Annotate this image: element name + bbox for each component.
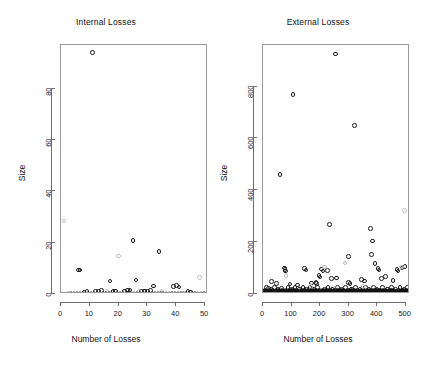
scatter-marker-circle <box>116 254 121 259</box>
scatter-marker-circle <box>278 172 283 177</box>
y-axis-tick-label: 200 <box>246 241 255 263</box>
x-axis-title-external: Number of Losses <box>212 334 424 344</box>
x-axis-tick <box>204 302 205 306</box>
scatter-marker-circle <box>62 219 67 224</box>
x-axis-tick <box>405 302 406 306</box>
scatter-marker-circle <box>352 123 357 128</box>
x-axis-tick <box>376 302 377 306</box>
scatter-marker-circle <box>325 268 330 273</box>
x-axis-tick <box>291 302 292 306</box>
y-axis-tick-label: 20 <box>44 241 53 263</box>
y-axis-tick-label: 80 <box>44 87 53 109</box>
x-axis-title-internal: Number of Losses <box>0 334 212 344</box>
panel-external-losses: External Losses 020040060080001002003004… <box>212 0 424 368</box>
plot-title-external: External Losses <box>212 17 424 27</box>
scatter-marker-circle <box>134 278 139 283</box>
scatter-marker-circle <box>197 275 202 280</box>
x-axis-tick-label: 20 <box>103 309 133 318</box>
scatter-marker-circle <box>346 254 351 259</box>
x-axis-tick-label: 200 <box>304 309 334 318</box>
scatter-marker-circle <box>348 281 353 286</box>
plot-area-internal <box>60 44 207 293</box>
scatter-marker-circle <box>383 274 388 279</box>
scatter-marker-circle <box>362 279 367 284</box>
scatter-marker-cross <box>128 291 133 292</box>
scatter-marker-circle <box>333 52 338 57</box>
x-axis-tick-label: 0 <box>247 309 277 318</box>
scatter-marker-circle <box>327 222 332 227</box>
scatter-points-internal <box>61 45 206 292</box>
x-axis-tick-label: 30 <box>131 309 161 318</box>
x-axis-line <box>60 302 204 303</box>
x-axis-tick <box>89 302 90 306</box>
plot-area-external <box>262 44 409 293</box>
x-axis-tick <box>319 302 320 306</box>
scatter-marker-circle <box>396 269 401 274</box>
x-axis-line <box>262 302 405 303</box>
x-axis-tick-label: 40 <box>160 309 190 318</box>
x-axis-tick-label: 10 <box>74 309 104 318</box>
y-axis-tick-label: 800 <box>246 85 255 107</box>
scatter-marker-circle <box>368 226 373 231</box>
x-axis-tick-label: 300 <box>333 309 363 318</box>
scatter-marker-cross <box>203 291 206 292</box>
scatter-marker-circle <box>343 261 348 266</box>
scatter-marker-circle <box>90 50 95 55</box>
x-axis-tick <box>118 302 119 306</box>
y-axis-tick-label: 40 <box>44 190 53 212</box>
x-axis-tick-label: 400 <box>361 309 391 318</box>
scatter-marker-circle <box>402 208 407 213</box>
scatter-marker-cross <box>194 291 199 292</box>
panel-internal-losses: Internal Losses 02040608001020304050 Siz… <box>0 0 212 368</box>
x-axis-tick-label: 100 <box>276 309 306 318</box>
scatter-marker-circle <box>108 279 113 284</box>
plot-title-internal: Internal Losses <box>0 17 212 27</box>
scatter-marker-circle <box>78 268 83 273</box>
scatter-marker-cross <box>407 289 408 292</box>
x-axis-tick <box>60 302 61 306</box>
scatter-marker-circle <box>157 249 162 254</box>
scatter-marker-circle <box>329 276 334 281</box>
y-axis-title-internal: Size <box>17 165 27 182</box>
x-axis-tick-label: 0 <box>45 309 75 318</box>
x-axis-tick-label: 500 <box>390 309 420 318</box>
scatter-marker-circle <box>269 279 274 284</box>
scatter-points-external <box>263 45 408 292</box>
scatter-marker-circle <box>391 278 396 283</box>
scatter-marker-circle <box>318 275 323 280</box>
scatter-marker-circle <box>377 268 382 273</box>
x-axis-tick <box>262 302 263 306</box>
scatter-marker-circle <box>373 261 378 266</box>
scatter-marker-circle <box>304 268 309 273</box>
x-axis-tick <box>348 302 349 306</box>
x-axis-tick <box>175 302 176 306</box>
scatter-marker-cross <box>79 291 84 292</box>
y-axis-title-external: Size <box>219 165 229 182</box>
scatter-marker-circle <box>369 252 374 257</box>
y-axis-tick-label: 60 <box>44 138 53 160</box>
y-axis-tick-label: 400 <box>246 189 255 211</box>
scatter-marker-circle <box>334 276 339 281</box>
scatter-marker-circle <box>131 238 136 243</box>
y-axis-tick-label: 600 <box>246 137 255 159</box>
scatter-marker-circle <box>370 239 375 244</box>
x-axis-tick <box>146 302 147 306</box>
scatter-marker-cross <box>162 291 167 292</box>
scatter-marker-circle <box>177 285 182 290</box>
scatter-marker-circle <box>284 273 289 278</box>
scatter-marker-circle <box>291 92 296 97</box>
